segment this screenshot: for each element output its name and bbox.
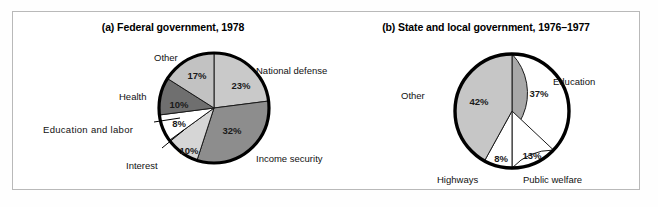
pct-health: 10%: [169, 99, 189, 110]
pct-education-and-labor: 8%: [172, 118, 186, 129]
label-public-welfare: Public welfare: [523, 174, 582, 185]
pie-chart-federal: 23% 32% 10% 8% 10% 17%: [13, 12, 333, 191]
label-national-defense: National defense: [256, 65, 327, 76]
pct-highways: 8%: [494, 153, 508, 164]
label-other: Other: [154, 52, 178, 63]
label-income-security: Income security: [256, 153, 323, 164]
pct-education: 37%: [529, 88, 549, 99]
pie-svg-state-local: 37% 13% 8% 42%: [333, 12, 639, 191]
pie-svg-federal: 23% 32% 10% 8% 10% 17%: [13, 12, 333, 191]
label-education: Education: [553, 76, 595, 87]
label-other-state: Other: [401, 90, 425, 101]
pct-income-security: 32%: [222, 125, 242, 136]
pct-national-defense: 23%: [231, 80, 251, 91]
pct-other-state: 42%: [469, 96, 489, 107]
pie-chart-state-local: 37% 13% 8% 42%: [333, 12, 639, 191]
panel-state-and-local-government: (b) State and local government, 1976–197…: [333, 12, 639, 191]
panel-federal-government: (a) Federal government, 1978: [13, 12, 333, 191]
label-health: Health: [119, 91, 146, 102]
pct-public-welfare: 13%: [522, 150, 542, 161]
label-interest: Interest: [126, 160, 158, 171]
figure-canvas: (a) Federal government, 1978: [0, 0, 658, 207]
label-highways: Highways: [437, 174, 478, 185]
pct-other: 17%: [187, 70, 207, 81]
figure-frame: (a) Federal government, 1978: [12, 11, 640, 190]
pct-interest: 10%: [179, 145, 199, 156]
label-education-and-labor: Education and labor: [43, 124, 133, 135]
